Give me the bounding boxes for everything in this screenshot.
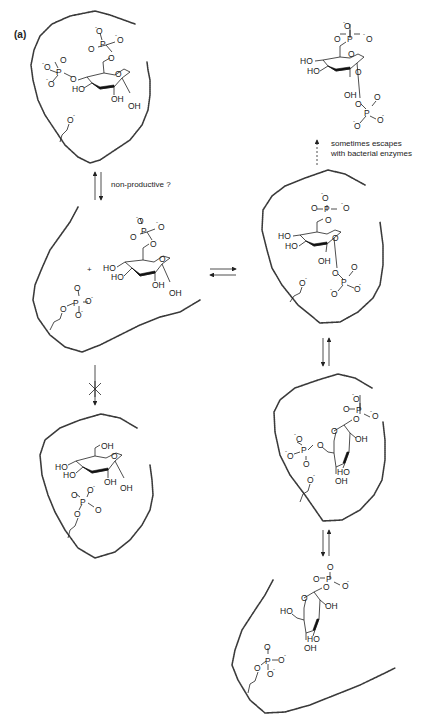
atom-o: O <box>88 44 95 54</box>
charge-minus: - <box>321 190 323 196</box>
equilibrium-arrow-horizontal <box>210 269 236 275</box>
cross-mark-icon <box>89 381 101 397</box>
atom-oh: OH <box>335 476 348 486</box>
equilibrium-arrow-non-productive: non-productive ? <box>95 172 171 200</box>
label-escape-line2: with bacterial enzymes <box>330 149 412 158</box>
atom-ho: HO <box>280 606 293 616</box>
atom-p: P <box>364 108 370 118</box>
atom-p: P <box>301 445 307 455</box>
atom-p: P <box>141 226 147 236</box>
atom-oh: OH <box>169 288 182 298</box>
atom-o: O <box>287 451 294 461</box>
charge-minus: - <box>363 31 365 37</box>
charge-minus: - <box>343 19 345 25</box>
charge-minus: - <box>330 286 332 292</box>
charge-minus: - <box>95 24 97 30</box>
atom-ho: HO <box>278 231 291 241</box>
atom-o: O <box>343 203 350 213</box>
charge-minus: - <box>81 308 83 314</box>
atom-o: O <box>311 203 318 213</box>
atom-o: O <box>150 239 157 249</box>
atom-o: O <box>325 215 332 225</box>
atom-ring-o: O <box>159 254 166 264</box>
atom-o: O <box>366 34 373 44</box>
enzyme-sidechain <box>50 313 62 330</box>
atom-oh: OH <box>104 477 117 487</box>
atom-p: P <box>347 34 353 44</box>
atom-ring-o: O <box>331 426 338 436</box>
atom-o: O <box>74 509 81 519</box>
atom-oh: OH <box>355 434 368 444</box>
charge-minus: - <box>313 472 315 478</box>
charge-minus: - <box>42 60 44 66</box>
atom-o: O <box>317 440 324 450</box>
atom-o: O <box>74 283 81 293</box>
atom-o: O <box>44 62 51 72</box>
equilibrium-arrow-right-2 <box>323 530 329 556</box>
atom-p: P <box>100 39 106 49</box>
atom-ring-o: O <box>332 233 339 243</box>
atom-o: O <box>374 92 381 102</box>
charge-minus: - <box>382 112 384 118</box>
charge-minus: - <box>91 294 93 300</box>
blocked-arrow <box>89 365 101 405</box>
charge-minus: - <box>347 578 349 584</box>
charge-minus: - <box>156 219 158 225</box>
charge-minus: - <box>353 118 355 124</box>
atom-o: O <box>313 574 320 584</box>
charge-minus: - <box>93 483 95 489</box>
atom-o: O <box>351 262 358 272</box>
bond-hydroxyls <box>68 461 124 478</box>
atom-ring-o: O <box>111 451 118 461</box>
state-free-g16bp: O O P O - O O - HO HO OH O P O O - O - <box>300 19 384 131</box>
atom-p: P <box>73 298 79 308</box>
atom-oh: OH <box>318 256 331 266</box>
atom-p: P <box>356 405 362 415</box>
atom-p: P <box>324 204 330 214</box>
enzyme-pocket-outline <box>274 374 385 521</box>
atom-ho: HO <box>285 241 298 251</box>
atom-o: O <box>348 49 355 59</box>
enzyme-sidechain <box>290 287 302 302</box>
bond-hydroxyls <box>117 262 170 282</box>
charge-minus: - <box>341 200 343 206</box>
state-enzyme-g16bp-complex: O - O O P O - O O - HO HO OH O P O O - O… <box>262 170 383 323</box>
state-phosphoenzyme-plus-g1p: O P O O - O - O O P O O O - OH HO HO OH <box>232 562 395 713</box>
atom-o: O <box>158 222 165 232</box>
atom-o: O <box>95 505 102 515</box>
atom-o: O <box>331 289 338 299</box>
atom-o: O <box>372 411 379 421</box>
atom-o: O <box>48 79 55 89</box>
atom-o: O <box>343 404 350 414</box>
charge-minus: - <box>115 32 117 38</box>
panel-label: (a) <box>14 29 26 40</box>
atom-ring-o: O <box>301 593 308 603</box>
charge-minus: - <box>73 112 75 118</box>
atom-o: O <box>355 99 362 109</box>
charge-minus: - <box>352 391 354 397</box>
charge-minus: - <box>273 666 275 672</box>
charge-minus: - <box>294 431 296 437</box>
charge-minus: - <box>46 76 48 82</box>
ring-bold-edge <box>306 241 327 246</box>
atom-oh: OH <box>120 483 133 493</box>
atom-o: O <box>344 21 351 31</box>
charge-minus: - <box>136 214 138 220</box>
enzyme-sidechain <box>248 672 258 693</box>
atom-p: P <box>341 277 347 287</box>
atom-o: O <box>117 35 124 45</box>
atom-o: O <box>137 216 144 226</box>
mechanism-diagram: (a) O - O P O - O O - O O P O O - O - HO… <box>0 0 422 719</box>
charge-minus: - <box>370 408 372 414</box>
atom-ring-o: O <box>355 67 362 77</box>
ring-bold-edge <box>83 467 108 473</box>
atom-ho: HO <box>63 470 76 480</box>
escape-arrow: sometimes escapes with bacterial enzymes <box>317 139 412 165</box>
charge-minus: - <box>284 652 286 658</box>
charge-minus: - <box>359 281 361 287</box>
atom-o: O <box>322 193 329 203</box>
atom-o: O <box>296 434 303 444</box>
atom-ho: HO <box>72 84 85 94</box>
atom-oh: OH <box>304 643 317 653</box>
bond-side <box>292 600 326 620</box>
